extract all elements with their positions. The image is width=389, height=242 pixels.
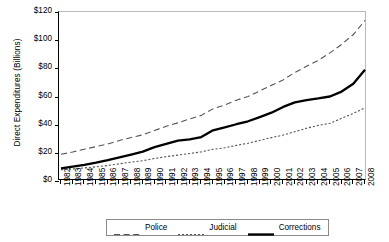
series-line-corrections xyxy=(61,70,365,169)
y-tick-mark xyxy=(55,40,59,41)
x-tick-mark xyxy=(60,180,61,184)
legend-label: Judicial xyxy=(209,223,236,232)
x-tick-label: 2005 xyxy=(333,168,341,186)
x-tick-mark xyxy=(118,180,119,184)
expenditures-line-chart: Direct Expenditures (Billions) $120$100$… xyxy=(0,0,389,242)
x-tick-label: 2008 xyxy=(368,168,376,186)
x-tick-label: 1990 xyxy=(157,168,165,186)
x-tick-label: 2004 xyxy=(321,168,329,186)
x-tick-mark xyxy=(352,180,353,184)
y-tick-mark xyxy=(55,153,59,154)
x-tick-label: 1999 xyxy=(262,168,270,186)
x-tick-mark xyxy=(107,180,108,184)
x-tick-label: 1989 xyxy=(145,168,153,186)
x-tick-label: 1993 xyxy=(192,168,200,186)
x-tick-mark xyxy=(317,180,318,184)
x-tick-label: 1983 xyxy=(75,168,83,186)
plot-area xyxy=(58,11,366,180)
y-tick-mark xyxy=(55,12,59,13)
x-tick-label: 1982 xyxy=(64,168,72,186)
y-tick-mark xyxy=(55,97,59,98)
x-tick-mark xyxy=(189,180,190,184)
x-tick-label: 1992 xyxy=(181,168,189,186)
x-tick-label: 2002 xyxy=(297,168,305,186)
series-line-police xyxy=(61,20,365,154)
x-tick-label: 1984 xyxy=(87,168,95,186)
x-tick-mark xyxy=(83,180,84,184)
x-tick-label: 2007 xyxy=(356,168,364,186)
x-tick-label: 1988 xyxy=(134,168,142,186)
x-tick-label: 1985 xyxy=(99,168,107,186)
x-tick-label: 1996 xyxy=(227,168,235,186)
legend-item-corrections[interactable]: Corrections xyxy=(248,223,321,232)
x-tick-mark xyxy=(154,180,155,184)
x-tick-mark xyxy=(177,180,178,184)
series-lines xyxy=(59,12,367,181)
x-tick-mark xyxy=(341,180,342,184)
x-tick-mark xyxy=(142,180,143,184)
x-tick-label: 2001 xyxy=(286,168,294,186)
chart-legend: PoliceJudicialCorrections xyxy=(106,219,329,236)
y-tick-label: $0 xyxy=(24,176,52,184)
y-tick-label: $120 xyxy=(24,7,52,15)
y-axis-tick-labels: $120$100$80$60$40$20$0 xyxy=(20,0,52,242)
x-tick-label: 1998 xyxy=(251,168,259,186)
x-tick-mark xyxy=(306,180,307,184)
legend-label: Corrections xyxy=(279,223,321,232)
x-tick-label: 2006 xyxy=(344,168,352,186)
y-tick-label: $60 xyxy=(24,92,52,100)
x-tick-mark xyxy=(212,180,213,184)
x-tick-mark xyxy=(130,180,131,184)
x-tick-label: 1986 xyxy=(110,168,118,186)
x-tick-label: 1995 xyxy=(216,168,224,186)
legend-swatch-icon xyxy=(178,224,204,231)
y-tick-label: $20 xyxy=(24,148,52,156)
x-tick-mark xyxy=(200,180,201,184)
x-tick-label: 1997 xyxy=(239,168,247,186)
legend-swatch-icon xyxy=(248,224,274,231)
legend-item-police[interactable]: Police xyxy=(114,223,167,232)
x-tick-mark xyxy=(235,180,236,184)
x-tick-mark xyxy=(95,180,96,184)
y-tick-mark xyxy=(55,125,59,126)
y-tick-label: $80 xyxy=(24,63,52,71)
x-tick-mark xyxy=(247,180,248,184)
x-tick-mark xyxy=(270,180,271,184)
x-tick-mark xyxy=(72,180,73,184)
x-tick-mark xyxy=(165,180,166,184)
x-tick-label: 1994 xyxy=(204,168,212,186)
x-tick-mark xyxy=(364,180,365,184)
x-tick-mark xyxy=(224,180,225,184)
legend-swatch-icon xyxy=(114,224,140,231)
x-tick-mark xyxy=(329,180,330,184)
y-tick-label: $100 xyxy=(24,35,52,43)
x-tick-mark xyxy=(259,180,260,184)
x-tick-label: 1987 xyxy=(122,168,130,186)
legend-item-judicial[interactable]: Judicial xyxy=(178,223,236,232)
y-tick-mark xyxy=(55,68,59,69)
x-tick-mark xyxy=(294,180,295,184)
x-tick-label: 2003 xyxy=(309,168,317,186)
legend-label: Police xyxy=(145,223,167,232)
y-tick-label: $40 xyxy=(24,120,52,128)
x-tick-label: 1991 xyxy=(169,168,177,186)
x-tick-label: 2000 xyxy=(274,168,282,186)
x-tick-mark xyxy=(282,180,283,184)
